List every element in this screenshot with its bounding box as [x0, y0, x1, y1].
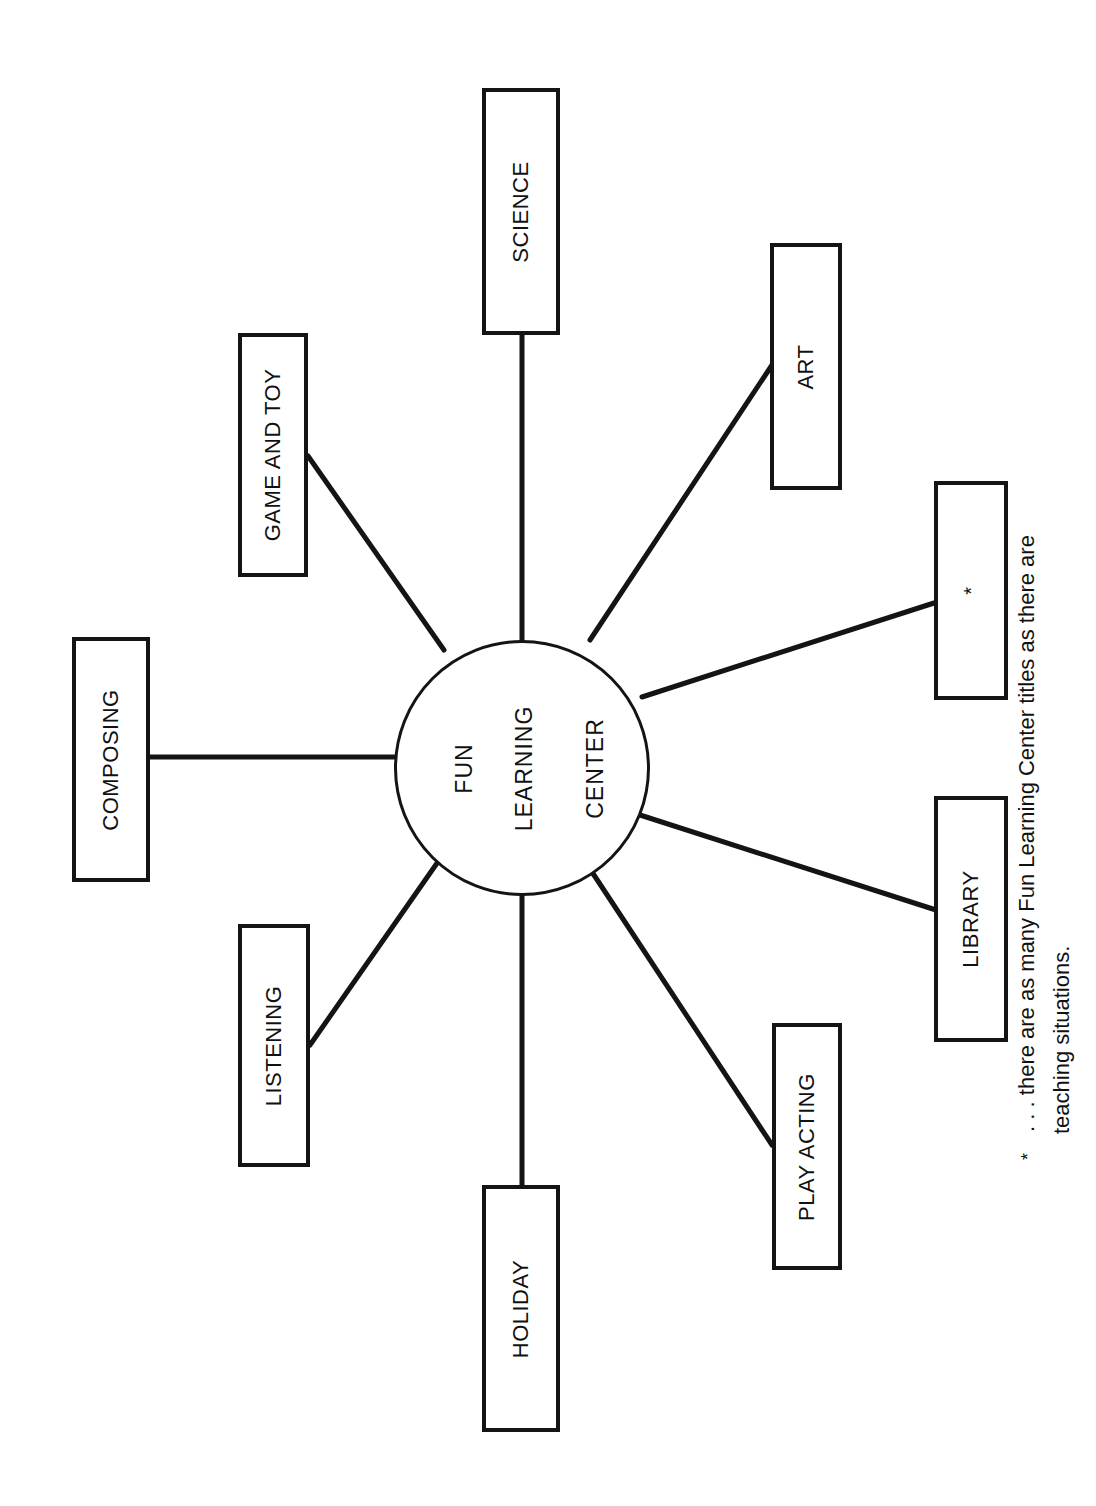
footnote-text-1: . . . there are as many Fun Learning Cen… — [1014, 535, 1039, 1132]
center-label: LIBRARY — [958, 870, 984, 967]
center-box-art: ART — [770, 243, 842, 490]
hub-circle: FUN LEARNING CENTER — [394, 640, 650, 896]
connector-art — [590, 365, 772, 640]
footnote-marker: * — [1011, 1138, 1045, 1160]
center-box-science: SCIENCE — [482, 88, 560, 335]
connector-game-and-toy — [308, 456, 444, 650]
connector-custom — [642, 603, 934, 697]
footnote-line-1: * . . . there are as many Fun Learning C… — [1010, 360, 1045, 1160]
center-label: PLAY ACTING — [794, 1073, 820, 1221]
asterisk-label: * — [959, 586, 982, 594]
center-label: LISTENING — [261, 985, 287, 1106]
center-box-custom: * — [934, 481, 1008, 700]
center-label: ART — [793, 344, 819, 389]
center-box-listening: LISTENING — [238, 924, 310, 1167]
center-box-composing: COMPOSING — [72, 637, 150, 882]
center-label: COMPOSING — [98, 689, 124, 830]
connector-play-acting — [592, 872, 772, 1145]
connector-listening — [310, 856, 442, 1045]
center-label: HOLIDAY — [508, 1259, 534, 1357]
hub-text-learning: LEARNING — [511, 699, 538, 839]
center-label: GAME AND TOY — [260, 369, 286, 542]
footnote: * . . . there are as many Fun Learning C… — [1010, 360, 1079, 1160]
center-label: SCIENCE — [508, 161, 534, 262]
footnote-line-2: teaching situations. — [1045, 360, 1079, 1160]
connector-library — [640, 815, 936, 910]
center-box-library: LIBRARY — [934, 796, 1008, 1042]
hub-text-center: CENTER — [582, 704, 609, 834]
center-box-holiday: HOLIDAY — [482, 1185, 560, 1432]
center-box-game-and-toy: GAME AND TOY — [238, 333, 308, 577]
hub-text-fun: FUN — [451, 714, 478, 824]
fun-learning-center-diagram: FUN LEARNING CENTER SCIENCE ART * LIBRAR… — [0, 0, 1096, 1506]
center-box-play-acting: PLAY ACTING — [772, 1023, 842, 1270]
